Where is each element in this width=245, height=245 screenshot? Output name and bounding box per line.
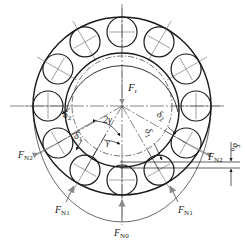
delta2-left-label: δ2	[63, 109, 72, 122]
fr-label: Fr	[127, 81, 138, 95]
delta2-right-label: δ2	[154, 108, 168, 124]
two-gamma-label: 2γ	[103, 114, 113, 125]
fn2-left-label: FN2	[17, 149, 33, 162]
fn1-right-label: FN1	[177, 204, 193, 217]
ball-tangent-centerline	[148, 164, 171, 177]
ball-tangent-centerline	[180, 58, 193, 81]
ball-tangent-centerline	[51, 58, 64, 81]
fn0-label: FN0	[113, 227, 129, 240]
bearing-load-diagram: Fr FN0 FN1 FN1 FN2 FN2 2γ γ δ2 δ1 δ2 δ1 …	[0, 0, 245, 245]
diagram-canvas: Fr FN0 FN1 FN1 FN2 FN2 2γ γ δ2 δ1 δ2 δ1 …	[0, 0, 245, 245]
ball-tangent-centerline	[74, 164, 97, 177]
ball-tangent-centerline	[148, 35, 171, 48]
fn1-left-label: FN1	[54, 204, 70, 217]
ball-tangent-centerline	[74, 35, 97, 48]
gamma-label: γ	[106, 137, 110, 147]
centerlines	[10, 4, 226, 225]
delta1-right-label: δ1	[141, 126, 156, 139]
